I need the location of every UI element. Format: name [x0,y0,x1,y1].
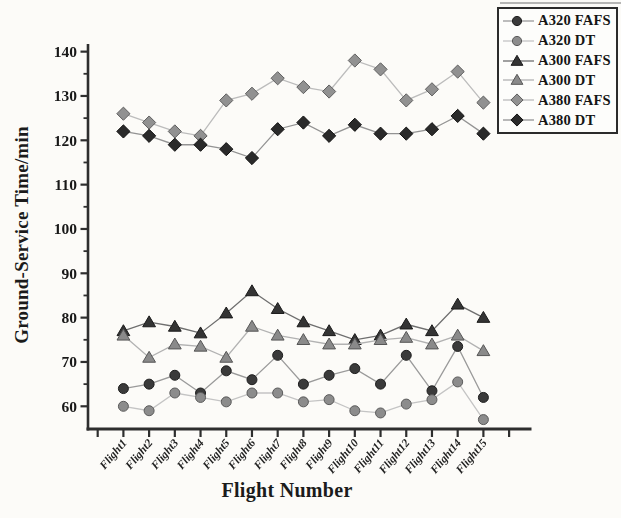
diamond-marker-icon [502,92,535,108]
data-point [118,384,128,394]
series-a380-dt [117,109,490,164]
x-tick-label: Flight1 [96,437,129,473]
diamond-marker-icon [502,112,535,128]
x-tick-label: Flight4 [174,436,207,472]
x-tick-label: Flight3 [148,436,181,472]
legend: A320 FAFSA320 DTA300 FAFSA300 DTA380 FAF… [497,7,618,134]
y-ticks: 60708090100110120130140 [54,43,88,415]
data-point [376,408,386,418]
data-point [168,125,181,138]
x-tick-label: Flight2 [122,436,155,472]
data-point [400,331,413,342]
legend-item: A320 FAFS [502,11,616,30]
data-point [246,285,259,296]
y-tick-label: 70 [62,353,78,370]
data-point [401,399,411,409]
data-point [425,123,438,136]
data-point [170,388,180,398]
legend-label: A320 DT [538,32,595,49]
data-point [350,406,360,416]
legend-item: A300 FAFS [502,51,616,70]
triangle-marker-icon [502,53,535,69]
data-point [425,83,438,96]
x-axis-title: Flight Number [147,479,427,502]
data-point [273,350,283,360]
axes [87,44,532,431]
data-point [117,107,130,120]
y-tick-label: 90 [62,265,78,282]
x-tick-label: Flight6 [225,436,258,472]
data-point [478,392,488,402]
circle-marker-icon [502,13,535,29]
data-point [168,138,181,151]
data-point [168,338,181,349]
data-point [246,320,259,331]
data-point [477,127,490,140]
data-point [324,395,334,405]
legend-marker [512,36,521,45]
data-point [144,406,154,416]
y-tick-label: 140 [54,43,78,60]
data-point [143,129,156,142]
data-point [271,329,284,340]
data-point [196,392,206,402]
y-tick-label: 120 [54,132,78,149]
circle-marker-icon [502,33,535,49]
legend-item: A380 DT [502,111,616,130]
y-tick-label: 110 [55,176,78,193]
data-point [477,311,490,322]
triangle-marker-icon [502,72,535,88]
data-point [400,318,413,329]
legend-marker [511,94,523,106]
legend-marker [512,16,521,25]
data-point [350,364,360,374]
data-point [297,81,310,94]
data-point [271,72,284,85]
y-tick-label: 130 [54,87,78,104]
data-point [221,366,231,376]
data-point [273,388,283,398]
data-point [401,350,411,360]
figure: 60708090100110120130140Flight1Flight2Fli… [0,0,621,518]
legend-label: A300 FAFS [538,52,611,69]
data-point [324,370,334,380]
data-point [143,116,156,129]
x-tick-label: Flight7 [251,436,285,473]
data-point [245,87,258,100]
legend-label: A380 FAFS [538,92,611,109]
data-point [143,316,156,327]
legend-item: A300 DT [502,71,616,90]
legend-label: A320 FAFS [538,12,611,29]
data-point [477,345,490,356]
legend-label: A300 DT [538,72,595,89]
data-point [247,375,257,385]
scan-artifact-line [500,2,621,4]
data-point [271,303,284,314]
y-tick-label: 100 [54,220,78,237]
data-point [323,129,336,142]
legend-item: A320 DT [502,31,616,50]
data-point [374,127,387,140]
data-point [478,415,488,425]
data-point [451,329,464,340]
data-point [451,298,464,309]
x-tick-label: Flight5 [199,436,232,472]
data-point [400,127,413,140]
legend-item: A380 FAFS [502,91,616,110]
y-tick-label: 80 [62,309,78,326]
y-axis-title: Ground-Service Time/min [11,115,37,355]
data-point [220,94,233,107]
y-tick-label: 60 [62,398,78,415]
legend-marker [511,75,523,85]
data-point [144,379,154,389]
data-point [220,143,233,156]
data-point [453,341,463,351]
data-point [194,138,207,151]
data-point [221,397,231,407]
x-tick-label: Flight8 [276,436,309,472]
data-point [348,118,361,131]
data-point [298,379,308,389]
legend-label: A380 DT [538,112,595,129]
data-point [451,109,464,122]
legend-marker [511,55,523,65]
